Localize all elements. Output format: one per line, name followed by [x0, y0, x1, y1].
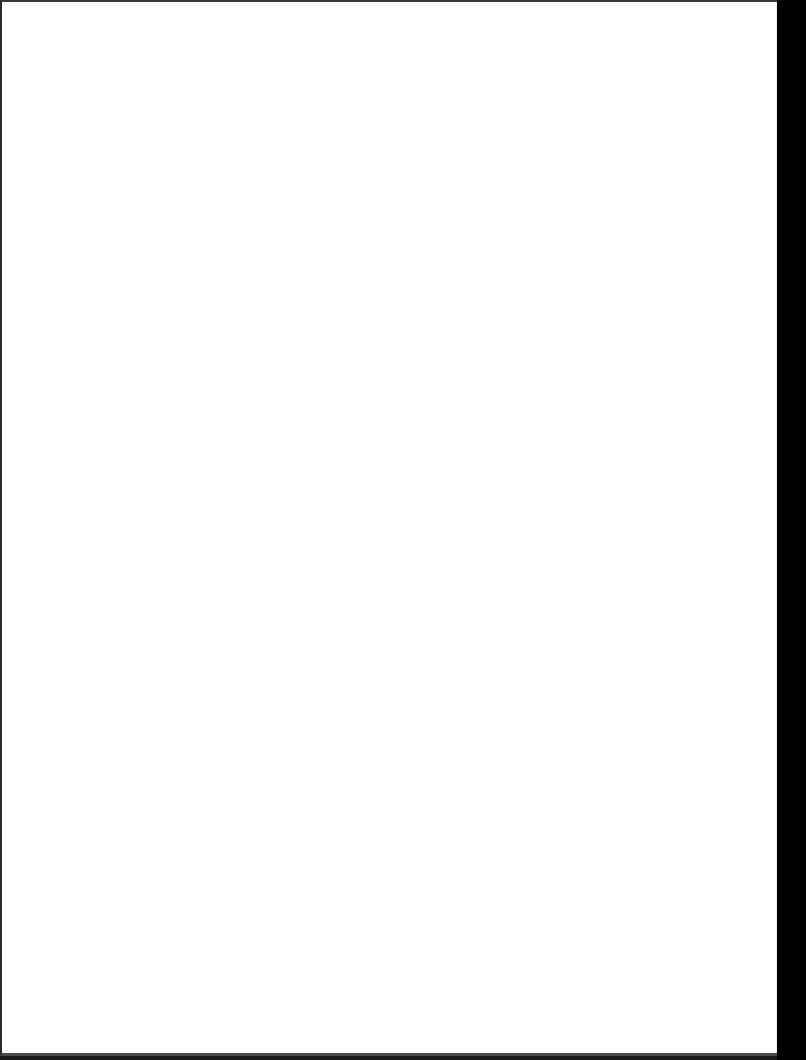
blank-page [0, 0, 777, 1056]
scanner-bottom-edge [0, 1056, 777, 1060]
scanner-background-strip [777, 0, 806, 1060]
scanned-document [0, 0, 806, 1060]
